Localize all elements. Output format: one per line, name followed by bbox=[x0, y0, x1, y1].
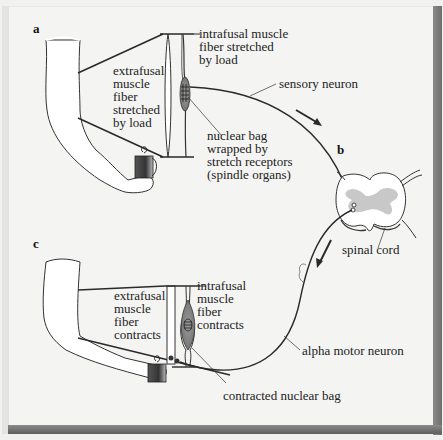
svg-text:(spindle organs): (spindle organs) bbox=[207, 167, 291, 182]
svg-text:contracts: contracts bbox=[197, 317, 244, 332]
alpha-motor-neuron-label: alpha motor neuron bbox=[302, 343, 404, 358]
weight-icon-c bbox=[148, 356, 166, 382]
svg-text:by load: by load bbox=[113, 115, 152, 130]
extrafusal-label-a: extrafusal muscle fiber stretched by loa… bbox=[113, 63, 165, 130]
svg-text:by load: by load bbox=[199, 52, 238, 67]
svg-text:contracts: contracts bbox=[114, 327, 161, 342]
spinal-cord-label: spinal cord bbox=[342, 242, 400, 257]
extrafusal-label-c: extrafusal muscle fiber contracts bbox=[114, 288, 166, 342]
arm-illustration-c bbox=[43, 259, 166, 379]
extrafusal-fiber-a bbox=[165, 34, 171, 157]
weight-icon-a bbox=[135, 147, 157, 178]
sensory-neuron-label: sensory neuron bbox=[279, 76, 359, 91]
nuclear-bag-label: nuclear bag wrapped by stretch receptors… bbox=[207, 128, 293, 182]
spinal-cord-cross-section bbox=[336, 170, 422, 238]
figure-frame: a bbox=[0, 0, 443, 440]
intrafusal-label-a: intrafusal muscle fiber stretched by loa… bbox=[199, 26, 288, 67]
panel-a-letter: a bbox=[33, 21, 40, 36]
contracted-nuclear-bag-label: contracted nuclear bag bbox=[223, 388, 341, 403]
panel-b-letter: b bbox=[337, 142, 344, 157]
intrafusal-label-c: intrafusal muscle fiber contracts bbox=[197, 278, 246, 332]
stretch-reflex-diagram: a bbox=[0, 0, 443, 440]
panel-c-letter: c bbox=[33, 236, 39, 251]
nuclear-bag-a bbox=[180, 77, 190, 111]
